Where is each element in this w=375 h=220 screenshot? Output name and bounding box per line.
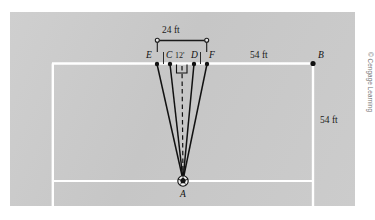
point-label-c: C — [166, 51, 172, 61]
dimension-label-side-run: 54 ft — [320, 116, 338, 126]
point-dot-f — [205, 62, 209, 66]
altitude-dashed-line — [182, 66, 183, 178]
dimension-label-goal-width: 24 ft — [162, 26, 180, 36]
dimension-bracket-icon — [155, 38, 208, 52]
diagram-canvas — [0, 0, 375, 220]
point-label-e: E — [146, 51, 152, 61]
point-label-f: F — [209, 51, 215, 61]
point-label-d: D — [191, 51, 198, 61]
sight-line-d-a — [183, 64, 194, 180]
soccer-ball-icon — [178, 176, 188, 186]
point-label-b: B — [318, 51, 324, 61]
sight-lines — [157, 64, 207, 180]
point-dot-c — [168, 62, 172, 66]
point-dot-d — [192, 62, 196, 66]
figure-container: 24 ft E C 12' D F 54 ft B 54 ft A © Ceng… — [0, 0, 375, 220]
point-dot-e — [155, 62, 159, 66]
dimension-label-inner-width: 12' — [175, 52, 184, 60]
point-dot-b — [310, 61, 315, 66]
sight-line-e-a — [157, 64, 183, 180]
dimension-label-top-run: 54 ft — [250, 51, 268, 61]
point-label-a: A — [180, 190, 186, 200]
copyright-credit: © Cengage Learning — [367, 52, 374, 112]
sight-line-f-a — [183, 64, 207, 180]
sight-line-c-a — [170, 64, 183, 180]
